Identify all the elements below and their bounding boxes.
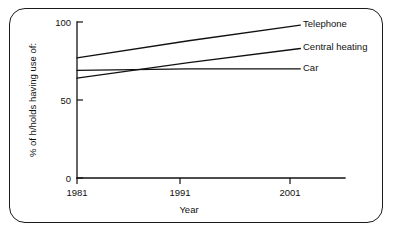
y-tick-label-100: 100 [55, 17, 71, 28]
x-axis-title: Year [179, 204, 198, 215]
x-tick-label-1981: 1981 [66, 187, 87, 198]
y-tick-label-0: 0 [66, 173, 71, 184]
y-tick-label-50: 50 [60, 95, 71, 106]
series-line-car [77, 69, 300, 71]
line-chart: 100 50 0 1981 1991 2001 Year % of h/hold… [0, 0, 394, 233]
series-label-central-heating: Central heating [303, 41, 367, 52]
x-tick-label-1991: 1991 [169, 187, 190, 198]
x-tick-label-2001: 2001 [279, 187, 300, 198]
series-label-telephone: Telephone [303, 18, 347, 29]
figure-root: 100 50 0 1981 1991 2001 Year % of h/hold… [0, 0, 394, 233]
series-label-car: Car [303, 62, 318, 73]
y-axis-title: % of h/holds having use of: [27, 43, 38, 157]
